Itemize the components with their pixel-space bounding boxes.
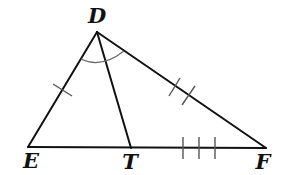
vertex-label-t: T — [122, 151, 138, 172]
segment-df — [97, 32, 266, 148]
tick-mark-df-2 — [182, 86, 195, 105]
tick-mark-de — [53, 84, 72, 96]
vertex-label-f: F — [256, 151, 271, 172]
segment-dt — [97, 32, 131, 148]
segment-ef — [28, 147, 266, 148]
vertex-label-e: E — [23, 150, 39, 171]
vertex-label-d: D — [88, 5, 106, 26]
triangle-diagram — [0, 0, 286, 175]
